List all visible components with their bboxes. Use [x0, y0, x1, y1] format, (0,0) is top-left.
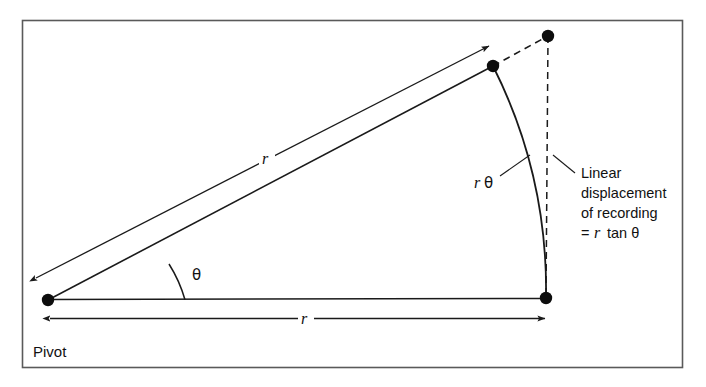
annotation-line-2: displacement: [581, 185, 666, 201]
arm-tip-dot: [487, 60, 499, 72]
diagram-canvas: r r θ r θ Pivot Linear displacement of r…: [0, 0, 706, 387]
base-radius-label: r: [301, 310, 308, 327]
pivot-dot: [42, 294, 54, 306]
arm-radius-label: r: [262, 150, 269, 167]
annotation-line-4-prefix: =: [581, 225, 589, 241]
pivot-label: Pivot: [33, 343, 67, 360]
annotation-line-3: of recording: [581, 205, 658, 221]
angle-label: θ: [192, 266, 201, 284]
arc-length-label-r: r: [474, 174, 481, 191]
baseline-end-dot: [540, 292, 552, 304]
baseline-horizontal: [48, 299, 546, 300]
diagram-figure: r r θ r θ Pivot Linear displacement of r…: [0, 0, 706, 387]
annotation-line-4-r: r: [594, 224, 601, 241]
annotation-line-1: Linear: [581, 165, 621, 181]
arc-length-label-theta: θ: [484, 174, 493, 192]
annotation-line-4-rest: tan θ: [607, 225, 639, 241]
tangent-end-dot: [542, 30, 554, 42]
